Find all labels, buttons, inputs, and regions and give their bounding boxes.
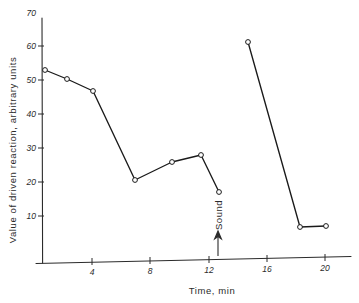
y-tick-label: 70: [27, 8, 37, 18]
sound-arrow-icon: [215, 231, 222, 256]
data-point-marker: [199, 153, 204, 158]
data-point-marker: [324, 224, 329, 229]
data-point-marker: [91, 89, 96, 94]
x-tick-label: 4: [90, 267, 95, 277]
data-point-marker: [170, 160, 175, 165]
data-point-marker: [217, 190, 222, 195]
series-line-after-sound: [248, 42, 326, 227]
y-tick-label: 60: [27, 41, 37, 51]
data-point-marker: [133, 178, 138, 183]
data-point-markers: [43, 40, 329, 230]
y-tick-label: 30: [27, 143, 37, 153]
y-tick-label: 20: [26, 177, 37, 187]
data-point-marker: [43, 68, 48, 73]
y-axis-tick-labels: 70 60 50 40 30 20 10: [26, 8, 37, 221]
x-tick-label: 16: [262, 264, 272, 274]
y-axis-title: Value of driven reaction, arbitrary unit…: [7, 57, 18, 244]
chart-canvas: 70 60 50 40 30 20 10 4 8 12 16 20: [0, 0, 359, 303]
x-axis-ticks: [92, 254, 325, 265]
series-line-before-sound: [45, 70, 219, 192]
data-point-marker: [298, 225, 303, 230]
data-point-marker: [246, 40, 251, 45]
y-tick-label: 50: [27, 75, 37, 85]
x-axis-tick-labels: 4 8 12 16 20: [90, 263, 330, 277]
x-tick-label: 12: [204, 265, 214, 275]
x-tick-label: 8: [148, 266, 153, 276]
data-point-marker: [65, 77, 70, 82]
chart-figure: 70 60 50 40 30 20 10 4 8 12 16 20: [0, 0, 359, 303]
x-tick-label: 20: [319, 263, 330, 273]
y-tick-label: 40: [27, 109, 37, 119]
y-axis-line: [42, 18, 43, 263]
x-axis-line: [36, 257, 351, 264]
sound-annotation-label: Sound: [213, 200, 224, 230]
y-tick-label: 10: [27, 211, 37, 221]
x-axis-title: Time, min: [189, 285, 236, 296]
